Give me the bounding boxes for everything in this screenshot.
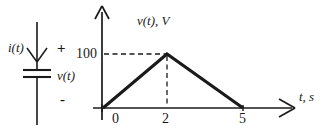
polarity-plus-label: + (57, 41, 66, 56)
y-axis-title: v(t), V (137, 14, 169, 27)
voltage-label: v(t) (57, 69, 75, 82)
x-tick-label-2: 2 (162, 112, 169, 126)
capacitor-circuit (23, 22, 51, 125)
x-tick-label-0: 0 (112, 112, 119, 126)
y-tick-label-100: 100 (76, 47, 97, 61)
x-tick-label-5: 5 (239, 112, 246, 126)
capacitor-icon (23, 70, 51, 77)
x-axis-title: t, s (299, 90, 314, 103)
plot-axes (93, 6, 295, 120)
figure-container: i(t) + v(t) - v(t), V t, s 100 0 2 5 (0, 0, 327, 134)
polarity-minus-label: - (60, 92, 65, 107)
waveform-triangle-trace (103, 54, 243, 108)
current-label: i(t) (8, 41, 24, 54)
